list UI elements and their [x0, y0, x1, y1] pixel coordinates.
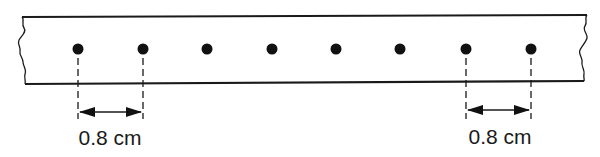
dots: [73, 44, 537, 55]
dot-6: [395, 44, 406, 55]
arrowhead-right-icon: [514, 105, 530, 115]
dot-2: [138, 44, 149, 55]
dot-3: [202, 44, 213, 55]
strip: [18, 15, 587, 84]
arrowhead-left-icon: [79, 107, 95, 117]
dimension-label-right: 0.8 cm: [468, 125, 531, 148]
dot-7: [461, 44, 472, 55]
dimension-left: [78, 58, 143, 119]
arrowhead-right-icon: [126, 107, 142, 117]
strip-right-break: [580, 15, 588, 81]
dimension-right: [466, 58, 531, 119]
strip-left-break: [18, 17, 25, 84]
strip-top-edge: [22, 15, 587, 17]
dot-strip-diagram: 0.8 cm 0.8 cm: [0, 0, 600, 157]
dot-4: [267, 44, 278, 55]
arrowhead-left-icon: [467, 105, 483, 115]
strip-bottom-edge: [25, 81, 584, 84]
dot-1: [73, 44, 84, 55]
dot-5: [331, 44, 342, 55]
dot-8: [526, 44, 537, 55]
dimension-label-left: 0.8 cm: [78, 126, 141, 149]
